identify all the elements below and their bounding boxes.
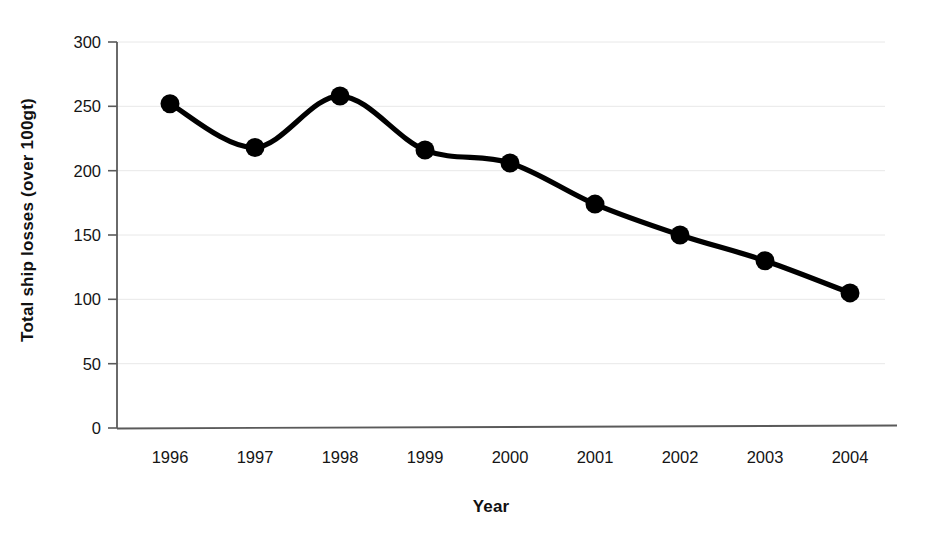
y-tick-label-300: 300 (73, 33, 101, 51)
x-tick-label-1997: 1997 (237, 448, 274, 466)
x-tick-label-1999: 1999 (407, 448, 444, 466)
x-tick-label-2004: 2004 (832, 448, 869, 466)
data-point-2003 (756, 251, 775, 270)
x-tick-label-1996: 1996 (152, 448, 189, 466)
x-axis-title: Year (473, 497, 510, 517)
data-point-1999 (416, 141, 435, 160)
data-point-2000 (501, 153, 520, 172)
x-axis-title-container: Year (0, 497, 940, 517)
y-tick-label-100: 100 (73, 290, 101, 308)
x-tick-labels: 1996 1997 1998 1999 2000 2001 2002 2003 … (152, 448, 869, 466)
data-point-2002 (671, 226, 690, 245)
y-axis (108, 42, 117, 428)
y-tick-label-250: 250 (73, 97, 101, 115)
series-line-total-ship-losses (170, 96, 850, 293)
x-tick-label-1998: 1998 (322, 448, 359, 466)
x-tick-label-2002: 2002 (662, 448, 699, 466)
y-tick-labels: 300 250 200 150 100 50 0 (73, 33, 101, 437)
x-tick-label-2003: 2003 (747, 448, 784, 466)
x-axis-line (117, 426, 897, 429)
x-axis (117, 426, 897, 429)
chart-container: Total ship losses (over 100gt) 300 25 (0, 0, 940, 538)
data-point-1996 (161, 94, 180, 113)
series-markers (161, 87, 860, 303)
data-point-1997 (246, 138, 265, 157)
data-point-2004 (841, 283, 860, 302)
y-tick-label-150: 150 (73, 226, 101, 244)
x-tick-label-2000: 2000 (492, 448, 529, 466)
data-point-2001 (586, 195, 605, 214)
data-point-1998 (331, 87, 350, 106)
y-tick-label-200: 200 (73, 162, 101, 180)
y-tick-label-50: 50 (83, 355, 101, 373)
x-tick-label-2001: 2001 (577, 448, 614, 466)
gridlines (117, 42, 885, 364)
y-tick-label-0: 0 (92, 419, 101, 437)
plot-area: 300 250 200 150 100 50 0 1996 1997 1998 … (0, 0, 940, 538)
